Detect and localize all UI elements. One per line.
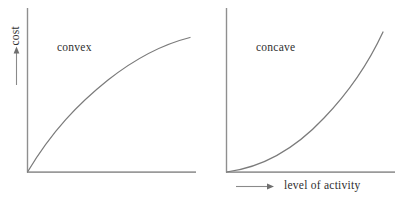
panel-concave: concave level of activity (200, 0, 402, 200)
convex-curve (28, 38, 191, 173)
y-axis-label: cost (10, 8, 22, 64)
concave-annotation: concave (256, 42, 295, 54)
convex-annotation: convex (57, 42, 92, 54)
panel-convex: cost convex (0, 0, 202, 200)
concave-curve (227, 32, 384, 172)
arrow-right-icon (267, 184, 274, 190)
convex-plot-svg (0, 0, 202, 200)
x-axis-label: level of activity (284, 180, 360, 192)
cost-behavior-figure: cost convex concave level of activity (0, 0, 405, 200)
concave-plot-svg (200, 0, 405, 200)
